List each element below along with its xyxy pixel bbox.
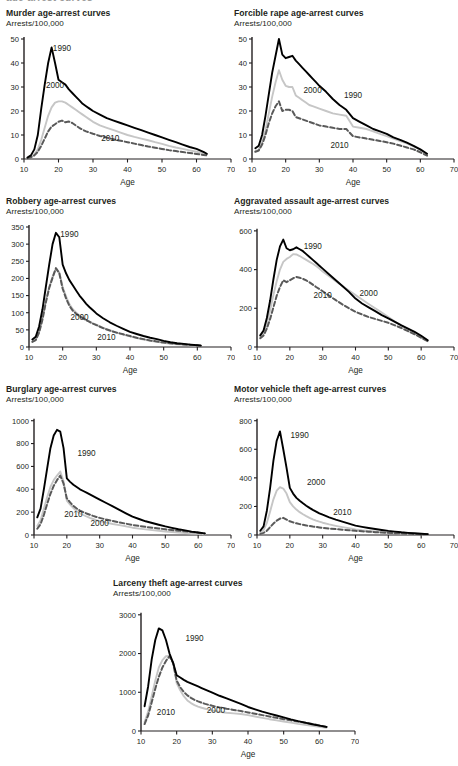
svg-text:100: 100 xyxy=(11,309,24,318)
svg-text:600: 600 xyxy=(239,445,252,454)
svg-text:20: 20 xyxy=(286,541,294,550)
svg-text:20: 20 xyxy=(11,107,19,116)
svg-text:40: 40 xyxy=(349,165,357,174)
svg-text:60: 60 xyxy=(315,737,323,746)
svg-text:50: 50 xyxy=(158,165,166,174)
panel-murder: Murder age-arrest curves Arrests/100,000… xyxy=(6,8,235,196)
panel-aggravated-assault: Aggravated assault age-arrest curves Arr… xyxy=(234,196,458,384)
svg-text:2000: 2000 xyxy=(119,649,136,658)
svg-text:30: 30 xyxy=(92,353,100,362)
svg-text:30: 30 xyxy=(208,737,216,746)
svg-text:60: 60 xyxy=(193,353,201,362)
svg-text:10: 10 xyxy=(30,541,38,550)
svg-text:600: 600 xyxy=(16,462,29,471)
svg-text:150: 150 xyxy=(11,291,24,300)
svg-text:30: 30 xyxy=(239,83,247,92)
svg-text:400: 400 xyxy=(239,265,252,274)
svg-text:10: 10 xyxy=(253,541,261,550)
svg-text:200: 200 xyxy=(239,304,252,313)
svg-text:50: 50 xyxy=(279,737,287,746)
svg-text:20: 20 xyxy=(58,353,66,362)
svg-text:70: 70 xyxy=(450,541,458,550)
series-label-2000: 2000 xyxy=(303,86,322,95)
svg-text:0: 0 xyxy=(25,531,29,540)
svg-text:70: 70 xyxy=(351,737,359,746)
svg-text:Age: Age xyxy=(241,750,256,759)
svg-text:800: 800 xyxy=(239,417,252,426)
svg-text:10: 10 xyxy=(239,131,247,140)
svg-text:300: 300 xyxy=(11,240,24,249)
svg-text:60: 60 xyxy=(416,165,424,174)
svg-text:50: 50 xyxy=(161,541,169,550)
svg-text:10: 10 xyxy=(20,165,28,174)
svg-text:Age: Age xyxy=(120,178,135,187)
svg-text:50: 50 xyxy=(382,165,390,174)
svg-text:20: 20 xyxy=(63,541,71,550)
series-label-2010: 2010 xyxy=(314,291,333,300)
panel-units: Arrests/100,000 xyxy=(6,207,235,217)
series-label-1990: 1990 xyxy=(53,44,72,53)
plot-area: 020040060080010203040506070Age1990200020… xyxy=(234,407,458,567)
svg-text:60: 60 xyxy=(194,541,202,550)
svg-text:20: 20 xyxy=(54,165,62,174)
svg-text:50: 50 xyxy=(239,35,247,44)
svg-text:40: 40 xyxy=(351,353,359,362)
svg-text:0: 0 xyxy=(132,727,136,736)
series-label-1990: 1990 xyxy=(344,91,363,100)
plot-area: 0102030405010203040506070Age199020002010 xyxy=(6,31,235,191)
panel-burglary: Burglary age-arrest curves Arrests/100,0… xyxy=(6,384,235,572)
panel-units: Arrests/100,000 xyxy=(6,395,235,405)
svg-text:60: 60 xyxy=(417,353,425,362)
series-label-2010: 2010 xyxy=(330,141,349,150)
svg-text:10: 10 xyxy=(25,353,33,362)
plot-area: 020040060010203040506070Age199020002010 xyxy=(234,219,458,379)
svg-text:30: 30 xyxy=(89,165,97,174)
series-label-2000: 2000 xyxy=(46,81,65,90)
svg-text:50: 50 xyxy=(384,353,392,362)
series-label-2010: 2010 xyxy=(157,708,176,717)
panel-title: Aggravated assault age-arrest curves xyxy=(234,196,458,206)
svg-text:20: 20 xyxy=(281,165,289,174)
panel-title: Burglary age-arrest curves xyxy=(6,384,235,394)
series-label-2010: 2010 xyxy=(64,510,83,519)
svg-text:30: 30 xyxy=(318,353,326,362)
svg-text:50: 50 xyxy=(384,541,392,550)
svg-text:20: 20 xyxy=(239,107,247,116)
svg-text:10: 10 xyxy=(248,165,256,174)
series-label-1990: 1990 xyxy=(77,449,96,458)
series-label-1990: 1990 xyxy=(291,431,310,440)
panel-units: Arrests/100,000 xyxy=(234,207,458,217)
svg-text:30: 30 xyxy=(95,541,103,550)
panel-motor-vehicle-theft: Motor vehicle theft age-arrest curves Ar… xyxy=(234,384,458,572)
panel-forcible-rape: Forcible rape age-arrest curves Arrests/… xyxy=(234,8,458,196)
series-label-2000: 2000 xyxy=(307,478,326,487)
panel-units: Arrests/100,000 xyxy=(234,19,458,29)
svg-text:350: 350 xyxy=(11,223,24,232)
svg-text:50: 50 xyxy=(159,353,167,362)
svg-text:Age: Age xyxy=(348,366,363,375)
series-label-2000: 2000 xyxy=(91,519,110,528)
svg-text:Age: Age xyxy=(346,178,361,187)
panel-units: Arrests/100,000 xyxy=(234,395,458,405)
svg-text:0: 0 xyxy=(248,531,252,540)
panel-units: Arrests/100,000 xyxy=(6,19,235,29)
svg-text:60: 60 xyxy=(192,165,200,174)
svg-text:1000: 1000 xyxy=(12,417,29,426)
svg-text:60: 60 xyxy=(417,541,425,550)
series-label-2010: 2010 xyxy=(333,508,352,517)
panel-title: Robbery age-arrest curves xyxy=(6,196,235,206)
plot-area: 0102030405010203040506070Age199020002010 xyxy=(234,31,458,191)
svg-text:50: 50 xyxy=(11,35,19,44)
svg-text:0: 0 xyxy=(15,155,19,164)
panel-larceny-theft: Larceny theft age-arrest curves Arrests/… xyxy=(113,578,373,766)
series-label-1990: 1990 xyxy=(185,634,204,643)
svg-text:200: 200 xyxy=(16,508,29,517)
svg-text:70: 70 xyxy=(450,165,458,174)
svg-text:200: 200 xyxy=(239,502,252,511)
svg-text:0: 0 xyxy=(248,343,252,352)
svg-text:30: 30 xyxy=(315,165,323,174)
svg-text:250: 250 xyxy=(11,257,24,266)
svg-text:30: 30 xyxy=(318,541,326,550)
plot-area: 05010015020025030035010203040506070Age19… xyxy=(6,219,235,379)
svg-text:30: 30 xyxy=(11,83,19,92)
